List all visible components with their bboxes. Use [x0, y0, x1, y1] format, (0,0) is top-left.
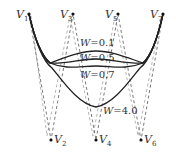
label-w-4-0: W=4.0 [103, 105, 138, 116]
label-w-0-1: W=0.1 [80, 37, 115, 48]
label-v5: V5 [105, 8, 117, 23]
label-w-0-5: W=0.5 [80, 52, 115, 63]
control-point-v6 [139, 138, 142, 141]
label-v4: V4 [99, 133, 112, 148]
control-point-v2 [49, 138, 52, 141]
label-v1: V1 [16, 8, 28, 23]
label-w-0-7: W=0.7 [80, 69, 115, 80]
label-v6: V6 [144, 133, 157, 148]
label-v3: V3 [60, 8, 72, 23]
label-v2: V2 [54, 133, 66, 148]
control-point-v4 [94, 138, 97, 141]
nurbs-diagram: V1 V3 V5 V7 V2 V4 V6 W=0.1 W=0.5 W=0.7 W… [0, 0, 176, 160]
label-v7: V7 [150, 8, 162, 23]
